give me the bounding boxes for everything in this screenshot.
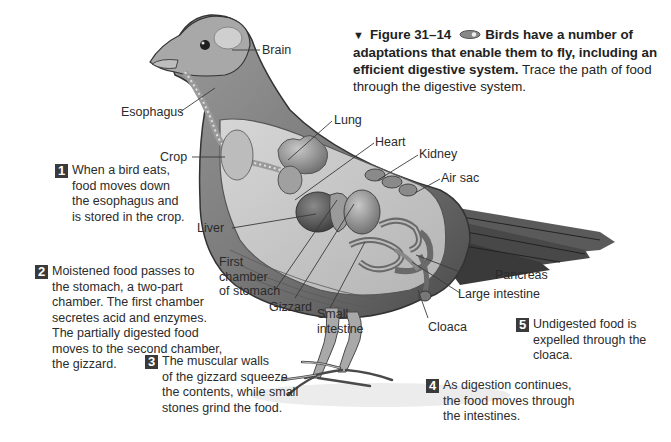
crop-organ: [221, 130, 253, 180]
step-3-text: The muscular walls of the gizzard squeez…: [162, 354, 298, 416]
cloaca-organ: [419, 291, 431, 301]
step-5-text: Undigested food is expelled through the …: [533, 317, 646, 364]
label-pancreas: Pancreas: [495, 268, 548, 283]
label-large-intestine: Large intestine: [458, 287, 540, 302]
step-2-number-badge: 2: [35, 265, 48, 279]
label-first-chamber-of-stomach: First chamber of stomach: [219, 255, 280, 299]
step-1-text: When a bird eats, food moves down the es…: [72, 163, 185, 225]
step-4-number-badge: 4: [426, 379, 439, 393]
step-5: 5Undigested food is expelled through the…: [516, 317, 646, 364]
step-1-number-badge: 1: [55, 164, 68, 178]
step-5-number-badge: 5: [516, 318, 529, 332]
label-air-sac: Air sac: [441, 171, 479, 186]
caption-bold-line3: efficient digestive system.: [353, 62, 519, 77]
figure-number: Figure 31–14: [370, 27, 451, 42]
label-brain: Brain: [262, 43, 291, 58]
caption-line4: through the digestive system.: [353, 79, 526, 94]
figure-caption: ▼Figure 31–14Birds have a number of adap…: [353, 26, 671, 95]
label-esophagus: Esophagus: [121, 105, 184, 120]
label-heart: Heart: [375, 135, 406, 150]
brain-organ: [214, 27, 242, 49]
heart-organ: [278, 166, 302, 194]
triangle-marker-icon: ▼: [353, 29, 364, 41]
label-kidney: Kidney: [419, 147, 457, 162]
step-4-text: As digestion continues, the food moves t…: [443, 378, 574, 425]
caption-bold-line2: adaptations that enable them to fly, inc…: [353, 45, 657, 60]
step-4: 4As digestion continues, the food moves …: [426, 378, 574, 425]
step-3: 3The muscular walls of the gizzard squee…: [145, 354, 298, 416]
eye-icon: [459, 30, 481, 39]
bird-eye: [200, 40, 210, 50]
caption-bold-line1: Birds have a number of: [485, 27, 633, 42]
label-cloaca: Cloaca: [428, 320, 467, 335]
label-gizzard: Gizzard: [269, 300, 312, 315]
caption-line3-rest: Trace the path of food: [519, 62, 652, 77]
label-small-intestine: Small intestine: [317, 307, 364, 337]
label-lung: Lung: [334, 113, 362, 128]
step-1: 1When a bird eats, food moves down the e…: [55, 163, 185, 225]
label-liver: Liver: [197, 221, 224, 236]
step-3-number-badge: 3: [145, 355, 158, 369]
